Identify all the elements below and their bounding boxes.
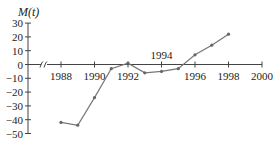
data-point	[227, 33, 230, 36]
y-axis: 3020100−10−20−30−40−50	[6, 17, 31, 139]
y-axis-title: M(t)	[17, 5, 39, 19]
line-chart: 3020100−10−20−30−40−50 19881990199219941…	[0, 0, 274, 145]
y-tick-label: −40	[6, 114, 24, 126]
data-point	[193, 53, 196, 56]
x-axis: 1988199019921994199619982000	[28, 49, 274, 82]
y-tick-label: −10	[6, 72, 24, 84]
x-tick-label: 1994	[151, 49, 174, 61]
y-tick-label: 10	[12, 45, 24, 57]
x-tick-label: 1990	[84, 70, 107, 82]
y-tick-label: −50	[6, 128, 24, 140]
x-tick-label: 1998	[218, 70, 241, 82]
x-tick-label: 2000	[251, 70, 274, 82]
data-point	[110, 67, 113, 70]
y-tick-label: 20	[12, 31, 24, 43]
data-point	[59, 121, 62, 124]
x-tick-label: 1996	[184, 70, 207, 82]
data-point	[210, 44, 213, 47]
data-point	[93, 96, 96, 99]
data-point	[126, 62, 129, 65]
x-tick-label: 1992	[117, 70, 139, 82]
y-tick-label: −30	[6, 100, 24, 112]
data-point	[76, 124, 79, 127]
x-tick-label: 1988	[50, 70, 73, 82]
y-tick-label: 0	[18, 59, 24, 71]
data-point	[177, 67, 180, 70]
y-tick-label: −20	[6, 86, 24, 98]
data-point	[143, 71, 146, 74]
data-point	[160, 70, 163, 73]
